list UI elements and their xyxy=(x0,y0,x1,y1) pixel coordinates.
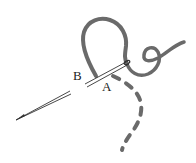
diagram-canvas: B A xyxy=(0,0,196,163)
dashed-thread xyxy=(113,76,141,150)
needle-thread-diagram: B A xyxy=(0,0,196,163)
label-a: A xyxy=(102,79,112,94)
label-b: B xyxy=(73,68,82,83)
thread-curl xyxy=(127,42,184,75)
thread-loop xyxy=(83,19,127,76)
